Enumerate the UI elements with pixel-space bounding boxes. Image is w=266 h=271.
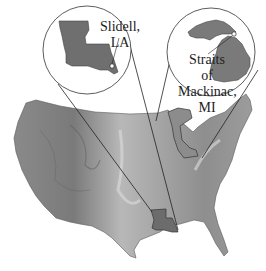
mackinac-label-line1: Straits xyxy=(178,52,236,68)
slidell-label-line2: LA xyxy=(100,35,140,51)
slidell-label: Slidell, LA xyxy=(100,19,140,51)
us-map xyxy=(14,94,252,258)
slidell-marker-icon xyxy=(110,64,114,68)
locator-map-figure: Slidell, LA Straits of Mackinac, MI xyxy=(0,0,266,271)
slidell-label-line1: Slidell, xyxy=(100,19,140,35)
mackinac-label-line3: Mackinac, xyxy=(178,84,236,100)
mackinac-label-line2: of xyxy=(178,68,236,84)
mackinac-label: Straits of Mackinac, MI xyxy=(178,52,236,116)
mackinac-marker-icon xyxy=(232,32,236,36)
mackinac-label-line4: MI xyxy=(178,100,236,116)
